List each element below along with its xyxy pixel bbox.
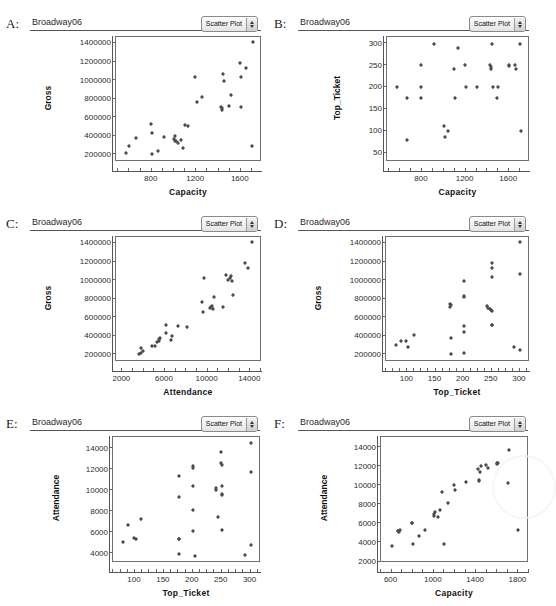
x-minor-tick bbox=[476, 168, 477, 171]
y-tick-label: 200000 bbox=[59, 149, 111, 158]
panel-header: Broadway06Scatter Plot bbox=[30, 217, 260, 234]
data-point bbox=[177, 537, 181, 541]
x-minor-tick bbox=[170, 569, 171, 572]
stepper-updown-icon[interactable] bbox=[514, 218, 525, 231]
data-point bbox=[440, 490, 444, 494]
x-minor-tick bbox=[162, 168, 163, 171]
stepper-updown-icon[interactable] bbox=[514, 418, 525, 431]
data-point bbox=[410, 521, 414, 525]
data-point bbox=[170, 333, 174, 337]
data-point bbox=[191, 529, 195, 533]
plot-area[interactable] bbox=[385, 236, 529, 361]
data-point bbox=[251, 40, 255, 44]
data-point bbox=[245, 266, 249, 270]
x-minor-tick bbox=[163, 569, 164, 572]
data-point bbox=[398, 528, 402, 532]
x-tick-label: 14000 bbox=[238, 374, 260, 383]
data-point bbox=[220, 463, 224, 467]
plot-type-select-label: Scatter Plot bbox=[206, 18, 246, 30]
data-point bbox=[220, 493, 224, 497]
y-axis-line bbox=[383, 36, 384, 171]
data-point bbox=[512, 345, 516, 349]
watermark-decoration bbox=[492, 455, 556, 519]
x-minor-tick bbox=[498, 368, 499, 371]
y-tick-label: 1000000 bbox=[329, 275, 381, 284]
plot-area[interactable] bbox=[115, 36, 261, 161]
plot-type-select[interactable]: Scatter Plot bbox=[469, 16, 526, 32]
plot-type-select[interactable]: Scatter Plot bbox=[201, 416, 258, 432]
data-point bbox=[220, 528, 224, 532]
data-point bbox=[212, 295, 216, 299]
x-tick-label: 100 bbox=[127, 575, 140, 584]
y-axis-label: Attendance bbox=[51, 435, 61, 561]
x-minor-tick bbox=[196, 368, 197, 371]
plot-type-select-label: Scatter Plot bbox=[474, 418, 514, 430]
data-point bbox=[514, 67, 518, 71]
data-point bbox=[181, 146, 185, 150]
x-axis-label: Top_Ticket bbox=[385, 387, 529, 397]
x-minor-tick bbox=[184, 168, 185, 171]
plot-area[interactable] bbox=[115, 236, 261, 361]
x-minor-tick bbox=[235, 569, 236, 572]
plot-type-select[interactable]: Scatter Plot bbox=[469, 416, 526, 432]
y-tick-label: 8000 bbox=[336, 499, 376, 508]
x-minor-tick bbox=[432, 168, 433, 171]
x-tick-label: 10000 bbox=[196, 374, 218, 383]
plot-type-select[interactable]: Scatter Plot bbox=[201, 216, 258, 232]
data-point bbox=[394, 343, 398, 347]
data-point bbox=[419, 95, 423, 99]
plot-area[interactable] bbox=[112, 436, 260, 562]
y-tick-label: 12000 bbox=[336, 461, 376, 470]
data-point bbox=[220, 305, 224, 309]
x-minor-tick bbox=[475, 569, 476, 572]
y-tick-label: 8000 bbox=[68, 506, 108, 515]
x-tick-label: 200 bbox=[185, 575, 198, 584]
plot-area[interactable] bbox=[386, 36, 529, 161]
plot-type-select[interactable]: Scatter Plot bbox=[201, 16, 258, 32]
stepper-updown-icon[interactable] bbox=[246, 18, 257, 31]
y-tick-label: 150 bbox=[348, 104, 382, 113]
data-point bbox=[211, 307, 215, 311]
x-minor-tick bbox=[195, 168, 196, 171]
data-point bbox=[462, 324, 466, 328]
data-point bbox=[507, 448, 511, 452]
data-point bbox=[139, 517, 143, 521]
plot-type-select[interactable]: Scatter Plot bbox=[469, 216, 526, 232]
x-tick-label: 2000 bbox=[112, 374, 130, 383]
stepper-updown-icon[interactable] bbox=[246, 218, 257, 231]
data-point bbox=[149, 122, 153, 126]
data-point bbox=[442, 542, 446, 546]
x-minor-tick bbox=[164, 368, 165, 371]
x-minor-tick bbox=[260, 368, 261, 371]
data-point bbox=[150, 131, 154, 135]
x-minor-tick bbox=[486, 569, 487, 572]
x-tick-label: 150 bbox=[156, 575, 169, 584]
x-axis-line bbox=[382, 371, 530, 372]
data-point bbox=[518, 272, 522, 276]
y-tick-label: 200 bbox=[348, 82, 382, 91]
panel-letter: C: bbox=[6, 216, 18, 232]
data-point bbox=[518, 41, 522, 45]
data-point bbox=[195, 100, 199, 104]
data-point bbox=[411, 333, 415, 337]
y-tick-label: 50 bbox=[348, 148, 382, 157]
panel-e: E:Broadway06Scatter Plot4000600080001000… bbox=[0, 406, 268, 606]
x-minor-tick bbox=[218, 168, 219, 171]
data-point bbox=[451, 67, 455, 71]
y-tick-label: 400000 bbox=[59, 331, 111, 340]
x-minor-tick bbox=[463, 368, 464, 371]
data-point bbox=[200, 300, 204, 304]
x-minor-tick bbox=[470, 368, 471, 371]
x-minor-tick bbox=[151, 168, 152, 171]
data-point bbox=[186, 124, 190, 128]
data-point bbox=[220, 484, 224, 488]
stepper-updown-icon[interactable] bbox=[246, 418, 257, 431]
x-minor-tick bbox=[121, 368, 122, 371]
data-point bbox=[244, 66, 248, 70]
y-axis-line bbox=[112, 236, 113, 371]
x-minor-tick bbox=[206, 569, 207, 572]
panel-c: C:Broadway06Scatter Plot2000004000006000… bbox=[0, 206, 268, 406]
data-point bbox=[490, 308, 494, 312]
stepper-updown-icon[interactable] bbox=[514, 18, 525, 31]
x-minor-tick bbox=[185, 368, 186, 371]
